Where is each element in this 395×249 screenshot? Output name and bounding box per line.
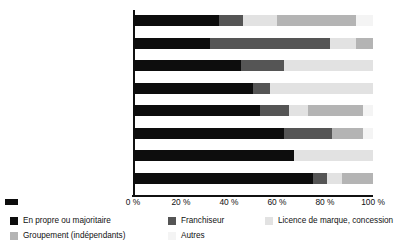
stacked-bar xyxy=(133,38,373,49)
x-tick-label: 20 % xyxy=(171,197,190,207)
legend-item[interactable]: En propre ou majoritaire xyxy=(10,216,111,225)
legend-item[interactable]: Licence de marque, concession xyxy=(265,216,393,225)
bar-row: Equipements du foyer xyxy=(133,101,373,124)
bar-segment xyxy=(133,15,219,26)
bar-segment xyxy=(210,38,330,49)
stacked-bar xyxy=(133,60,373,71)
bar-segment xyxy=(284,128,332,139)
stacked-bar xyxy=(133,150,373,161)
bar-segment xyxy=(342,173,373,184)
x-tick-label: 100 % xyxy=(361,197,385,207)
bar-segment xyxy=(289,105,308,116)
bar-row: Equipements de la personne xyxy=(133,169,373,192)
bar-segment xyxy=(363,105,373,116)
bar-segment xyxy=(363,128,373,139)
legend-item[interactable]: Franchiseur xyxy=(168,216,224,225)
stacked-bar xyxy=(133,15,373,26)
bar-segment xyxy=(133,105,260,116)
legend-swatch-icon xyxy=(168,232,176,240)
legend-swatch-icon xyxy=(10,232,18,240)
bar-segment xyxy=(133,128,284,139)
legend-label: Autres xyxy=(181,231,205,240)
legend-label: Franchiseur xyxy=(181,216,224,225)
bar-row: Autres commerces alimentaires xyxy=(133,34,373,57)
legend-label: En propre ou majoritaire xyxy=(23,216,111,225)
bar-segment xyxy=(253,83,270,94)
bar-segment xyxy=(243,15,277,26)
bar-segment xyxy=(332,128,363,139)
bar-segment xyxy=(294,150,373,161)
legend-item[interactable]: Groupement (indépendants) xyxy=(10,231,125,240)
bar-segment xyxy=(277,15,356,26)
legend-item[interactable]: Autres xyxy=(168,231,205,240)
bar-row: Autres commerces non alimentaires xyxy=(133,124,373,147)
legend-label: Groupement (indépendants) xyxy=(23,231,125,240)
legend-swatch-icon xyxy=(265,217,273,225)
bar-segment xyxy=(219,15,243,26)
corner-mark xyxy=(5,199,18,205)
stacked-bar xyxy=(133,128,373,139)
legend-label: Licence de marque, concession xyxy=(278,216,393,225)
bar-segment xyxy=(133,173,313,184)
bar-row: Aménagement de l’habitat xyxy=(133,146,373,169)
bar-segment xyxy=(270,83,373,94)
x-tick-label: 60 % xyxy=(267,197,286,207)
bar-segment xyxy=(284,60,373,71)
x-tick-label: 40 % xyxy=(219,197,238,207)
bar-segment xyxy=(356,15,373,26)
legend-swatch-icon xyxy=(10,217,18,225)
bar-segment xyxy=(356,38,373,49)
plot-area: Culture-loisirs-sportAutres commerces al… xyxy=(133,10,373,195)
bar-segment xyxy=(133,83,253,94)
bar-row: Grandes surfaces alimentaires xyxy=(133,79,373,102)
bar-row: Culture-loisirs-sport xyxy=(133,11,373,34)
bar-segment xyxy=(327,173,341,184)
bar-segment xyxy=(260,105,289,116)
stacked-bar-chart: Culture-loisirs-sportAutres commerces al… xyxy=(0,0,395,249)
bar-segment xyxy=(313,173,327,184)
stacked-bar xyxy=(133,105,373,116)
x-axis-line xyxy=(132,195,373,197)
x-tick-label: 0 % xyxy=(126,197,140,207)
bar-segment xyxy=(241,60,284,71)
bar-segment xyxy=(308,105,363,116)
bar-segment xyxy=(133,38,210,49)
bar-segment xyxy=(133,60,241,71)
bar-row: Commerce et réparation d’automobiles xyxy=(133,56,373,79)
chart-legend: En propre ou majoritaireFranchiseurLicen… xyxy=(10,216,395,246)
legend-row: Groupement (indépendants)Autres xyxy=(10,231,395,246)
stacked-bar xyxy=(133,83,373,94)
x-tick-label: 80 % xyxy=(315,197,334,207)
bar-segment xyxy=(330,38,356,49)
stacked-bar xyxy=(133,173,373,184)
bar-segment xyxy=(133,150,294,161)
legend-swatch-icon xyxy=(168,217,176,225)
legend-row: En propre ou majoritaireFranchiseurLicen… xyxy=(10,216,395,231)
